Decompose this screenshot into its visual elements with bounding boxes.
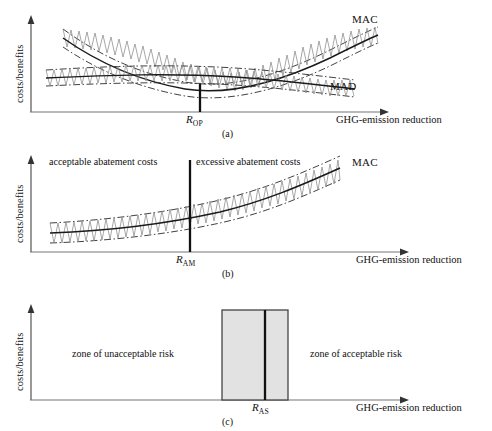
threshold-label-rop-sub: OP bbox=[193, 119, 203, 128]
zone-label-acceptable-risk: zone of acceptable risk bbox=[310, 348, 402, 359]
x-axis-label-c: GHG-emission reduction bbox=[356, 402, 462, 413]
panel-caption-c: (c) bbox=[222, 416, 233, 427]
mac-band-lower-b bbox=[50, 180, 340, 243]
mac-curve-b bbox=[50, 168, 340, 233]
panel-c: costs/benefits GHG-emission reduction zo… bbox=[0, 285, 492, 431]
threshold-label-ram-base: R bbox=[176, 253, 183, 265]
zone-label-acceptable-costs: acceptable abatement costs bbox=[49, 156, 157, 167]
y-axis-label-b: costs/benefits bbox=[14, 184, 25, 243]
panel-a: costs/benefits GHG-emission reduction MA… bbox=[0, 0, 492, 145]
y-axis-label-c: costs/benefits bbox=[14, 332, 25, 391]
zone-label-excessive-costs: excessive abatement costs bbox=[196, 156, 300, 167]
threshold-label-ras: RAS bbox=[252, 401, 269, 416]
threshold-label-ram-sub: AM bbox=[183, 259, 196, 268]
panel-b: costs/benefits GHG-emission reduction ac… bbox=[0, 140, 492, 285]
x-axis-label-b: GHG-emission reduction bbox=[356, 254, 462, 265]
threshold-label-ras-sub: AS bbox=[259, 407, 269, 416]
curve-label-mad-a: MAD bbox=[330, 80, 357, 92]
threshold-label-rop: ROP bbox=[186, 113, 203, 128]
curve-label-mac-b: MAC bbox=[352, 156, 378, 168]
panel-a-axes bbox=[28, 15, 389, 115]
curve-label-mac-a: MAC bbox=[352, 13, 378, 25]
threshold-label-ram: RAM bbox=[176, 253, 195, 268]
zone-label-unacceptable-risk: zone of unacceptable risk bbox=[72, 348, 174, 359]
threshold-label-rop-base: R bbox=[186, 113, 193, 125]
y-axis-label-a: costs/benefits bbox=[14, 44, 25, 103]
panel-caption-a: (a) bbox=[222, 128, 233, 139]
transition-zone-box bbox=[222, 310, 288, 400]
panel-b-axes bbox=[28, 155, 409, 255]
x-axis-label-a: GHG-emission reduction bbox=[336, 114, 442, 125]
panel-caption-b: (b) bbox=[222, 268, 234, 279]
threshold-label-ras-base: R bbox=[252, 401, 259, 413]
